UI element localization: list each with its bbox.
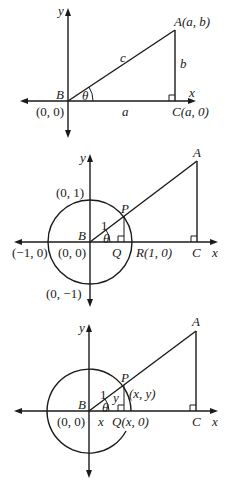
angle-arc (89, 87, 93, 101)
point-p-label: P (120, 370, 129, 385)
origin-label: (0, 0) (58, 245, 86, 260)
y-axis-down-arrow-icon (86, 470, 92, 478)
vertex-a-label: A (192, 145, 201, 160)
side-y-label: y (111, 390, 119, 405)
vertex-a-label: A(a, b) (173, 14, 210, 29)
y-axis-up-arrow-icon (65, 8, 71, 16)
vertex-b-label: B (78, 228, 86, 243)
left-point-label: (−1, 0) (12, 245, 48, 260)
right-angle-mark-c (191, 236, 197, 242)
vertex-a-label: A (191, 314, 200, 329)
vertex-c-label: C(a, 0) (172, 104, 209, 119)
angle-theta-label: θ (103, 231, 110, 246)
x-axis-label: x (188, 85, 195, 100)
x-axis-left-arrow-icon (20, 98, 28, 104)
right-angle-mark-q (118, 405, 124, 411)
y-axis-down-arrow-icon (65, 130, 71, 138)
side-x-label: x (97, 414, 104, 429)
point-p-coords-label: (x, y) (129, 386, 156, 401)
bottom-point-label: (0, −1) (46, 286, 82, 301)
x-axis-left-arrow-icon (14, 408, 22, 414)
point-q-label: Q (112, 245, 122, 260)
right-angle-mark (169, 95, 175, 101)
y-axis-label: y (77, 320, 85, 335)
side-b-label: b (180, 56, 187, 71)
angle-theta-label: θ (102, 400, 109, 415)
y-axis-up-arrow-icon (87, 154, 93, 162)
y-axis-up-arrow-icon (86, 324, 92, 332)
y-axis-label: y (78, 150, 86, 165)
right-angle-mark-c (190, 405, 196, 411)
side-a-label: a (122, 104, 129, 119)
y-axis-down-arrow-icon (87, 299, 93, 307)
vertex-c-label: C (192, 414, 201, 429)
diagram-unit-circle: y x A B C P Q R(1, 0) (0, 0) (0, 1) (0, … (12, 145, 218, 307)
origin-label: (0, 0) (36, 104, 64, 119)
point-p-label: P (120, 201, 129, 216)
top-point-label: (0, 1) (56, 185, 84, 200)
point-q-label: Q(x, 0) (112, 414, 149, 429)
vertex-c-label: C (192, 245, 201, 260)
right-angle-mark-q (118, 236, 124, 242)
trig-diagrams: y x B (0, 0) A(a, b) C(a, 0) a b c θ y x… (0, 0, 232, 499)
x-axis-label: x (211, 245, 218, 260)
vertex-b-label: B (56, 87, 64, 102)
angle-theta-label: θ (82, 88, 89, 103)
diagram-unit-circle-coords: y x A B C P (x, y) Q(x, 0) (0, 0) 1 x y … (14, 314, 218, 478)
y-axis-label: y (56, 3, 64, 18)
vertex-b-label: B (78, 397, 86, 412)
point-r-label: R(1, 0) (135, 245, 172, 260)
origin-label: (0, 0) (57, 414, 85, 429)
x-axis-label: x (211, 414, 218, 429)
side-c-label: c (120, 50, 126, 65)
diagram-right-triangle: y x B (0, 0) A(a, b) C(a, 0) a b c θ (20, 3, 210, 138)
